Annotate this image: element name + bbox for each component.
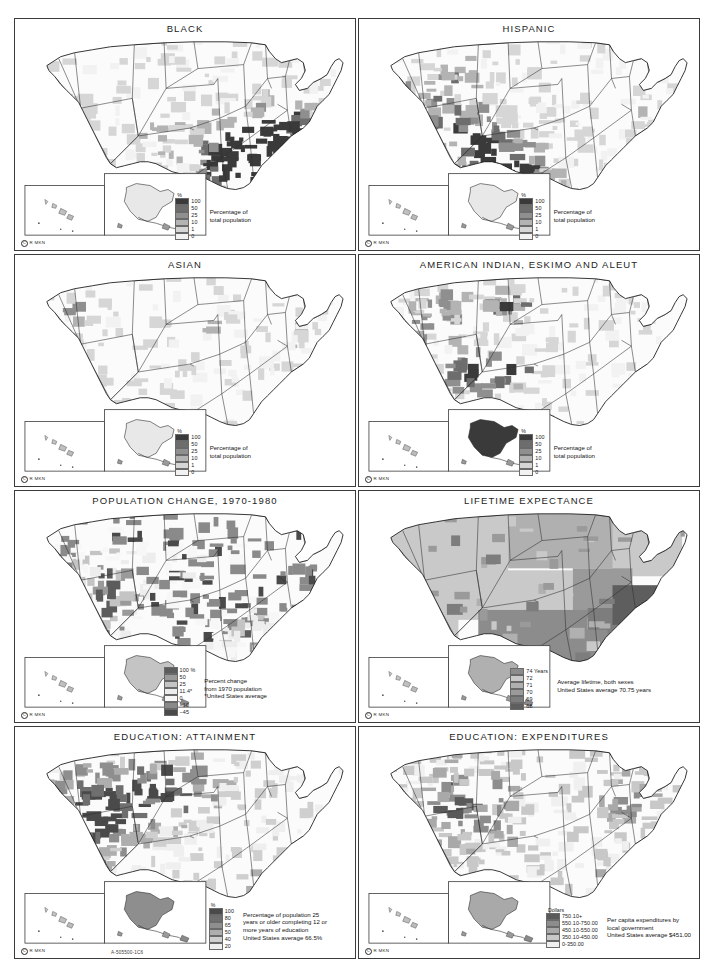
copyright-notice: C R MKN <box>365 948 389 955</box>
legend-value: 0-350.00 <box>560 941 598 948</box>
map-panel-asian[interactable]: ASIAN%10050251010Percentage oftotal popu… <box>14 254 356 487</box>
legend-description: Percentage oftotal population <box>210 444 251 459</box>
legend-description-line: local government <box>607 924 691 932</box>
legend-description-line: total population <box>554 216 595 224</box>
legend-swatch <box>519 198 533 205</box>
legend-value: 40 <box>223 936 234 943</box>
legend-swatch <box>519 205 533 212</box>
legend-swatch <box>519 462 533 469</box>
legend-swatch <box>164 674 178 681</box>
legend-description-line: years or older completing 12 or <box>243 918 327 926</box>
copyright-icon: C <box>21 476 28 483</box>
legend-swatch <box>546 941 560 948</box>
legend-swatch <box>175 448 189 455</box>
legend-value: 1 <box>189 462 200 469</box>
legend-swatch <box>546 913 560 920</box>
legend-description-line: Percentage of <box>210 208 251 216</box>
panel-title: EDUCATION: EXPENDITURES <box>359 731 699 742</box>
panel-title: LIFETIME EXPECTANCE <box>359 495 699 506</box>
legend-value: 100 <box>223 908 234 915</box>
legend-description: Percentage oftotal population <box>210 208 251 223</box>
legend-value: −10 <box>178 702 196 709</box>
legend-value: 71 <box>524 682 548 689</box>
legend-swatch <box>519 448 533 455</box>
copyright-icon: C <box>365 948 372 955</box>
map-panel-education-expenditures[interactable]: EDUCATION: EXPENDITURESDollars750.10+550… <box>358 726 700 959</box>
legend-swatch-column <box>519 198 533 240</box>
legend-description: Percent changefrom 1970 population*Unite… <box>204 677 267 700</box>
legend-swatch <box>164 681 178 688</box>
legend-description-line: United States average 70.75 years <box>557 686 651 694</box>
legend-description: Average lifetime, both sexesUnited State… <box>557 678 651 693</box>
legend-value: 50 <box>189 441 200 448</box>
panel-title: AMERICAN INDIAN, ESKIMO AND ALEUT <box>359 259 699 270</box>
legend-swatch <box>175 233 189 240</box>
copyright-icon: C <box>21 948 28 955</box>
copyright-text: R MKN <box>374 476 390 481</box>
legend-swatch <box>209 943 223 950</box>
legend-swatch <box>209 915 223 922</box>
legend-label-column: 10050251010 <box>533 434 544 476</box>
copyright-icon: C <box>21 712 28 719</box>
legend-swatch <box>175 198 189 205</box>
panel-title: ASIAN <box>15 259 355 270</box>
legend-description-line: Percentage of <box>210 444 251 452</box>
map-panel-lifetime-expectance[interactable]: LIFETIME EXPECTANCE74 Years7271706968Ave… <box>358 490 700 723</box>
legend-swatch <box>519 212 533 219</box>
legend-swatch <box>175 455 189 462</box>
panel-title: HISPANIC <box>359 23 699 34</box>
legend-description: Percentage oftotal population <box>554 444 595 459</box>
legend-value: 74 Years <box>524 668 548 675</box>
legend-label-column: 750.10+550.10-750.00450.10-550.00350.10-… <box>560 913 598 948</box>
legend-swatch <box>164 688 178 695</box>
legend-value: 25 <box>189 448 200 455</box>
legend-value: 68 <box>524 703 548 710</box>
copyright-notice: C R MKN <box>365 712 389 719</box>
copyright-icon: C <box>365 476 372 483</box>
legend-value: 750.10+ <box>560 913 598 920</box>
legend-swatch <box>175 469 189 476</box>
legend-swatch <box>510 689 524 696</box>
legend-swatch <box>510 703 524 710</box>
legend-description-line: United States average 66.5% <box>243 934 327 942</box>
legend-swatch <box>175 441 189 448</box>
legend-swatch <box>175 462 189 469</box>
legend-swatch <box>519 219 533 226</box>
legend-swatch <box>209 936 223 943</box>
legend-value: 1 <box>189 226 200 233</box>
legend-swatch <box>164 702 178 709</box>
panel-title: BLACK <box>15 23 355 34</box>
map-panel-american-indian[interactable]: AMERICAN INDIAN, ESKIMO AND ALEUT%100502… <box>358 254 700 487</box>
legend-swatch-column <box>510 668 524 710</box>
legend-value: 10 <box>533 455 544 462</box>
map-panel-hispanic[interactable]: HISPANIC%10050251010Percentage oftotal p… <box>358 18 700 251</box>
copyright-icon: C <box>21 240 28 247</box>
legend-swatch-column <box>164 667 178 716</box>
legend-swatch <box>510 696 524 703</box>
legend-swatch <box>546 927 560 934</box>
legend-description-line: total population <box>210 216 251 224</box>
panel-title: EDUCATION: ATTAINMENT <box>15 731 355 742</box>
map-legend: %10050251010Percentage oftotal populatio… <box>519 192 595 240</box>
map-panel-education-attainment[interactable]: EDUCATION: ATTAINMENT%1008065504020Perce… <box>14 726 356 959</box>
legend-description: Percentage of population 25years or olde… <box>243 911 327 941</box>
copyright-notice: C R MKN <box>21 948 45 955</box>
legend-value: 100 <box>533 198 544 205</box>
legend-label-column: 1008065504020 <box>223 908 234 950</box>
legend-description-line: total population <box>210 452 251 460</box>
legend-label-column: 10050251010 <box>533 198 544 240</box>
legend-swatch <box>164 709 178 716</box>
copyright-notice: C R MKN <box>365 240 389 247</box>
legend-swatch <box>519 434 533 441</box>
map-panel-black[interactable]: BLACK%10050251010Percentage oftotal popu… <box>14 18 356 251</box>
legend-swatch <box>510 682 524 689</box>
legend-value: 350.10-450.00 <box>560 934 598 941</box>
map-panel-population-change[interactable]: POPULATION CHANGE, 1970-1980100 %502511.… <box>14 490 356 723</box>
legend-swatch <box>546 920 560 927</box>
legend-swatch-column <box>209 908 223 950</box>
legend-value: 0 <box>533 469 544 476</box>
legend-value: 20 <box>223 943 234 950</box>
legend-value: 50 <box>189 205 200 212</box>
legend-value: 550.10-750.00 <box>560 920 598 927</box>
legend-value: 1 <box>533 462 544 469</box>
